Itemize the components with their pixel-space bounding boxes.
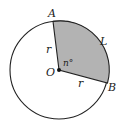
radius-label-ob: r bbox=[78, 77, 84, 90]
shaded-sector bbox=[53, 21, 109, 83]
point-a-label: A bbox=[47, 7, 56, 20]
angle-label: n° bbox=[63, 58, 73, 68]
circle-sector-diagram: A L r n° O r B bbox=[0, 0, 123, 124]
point-b-label: B bbox=[107, 81, 116, 94]
center-label: O bbox=[46, 66, 55, 79]
radius-label-oa: r bbox=[46, 43, 52, 56]
center-point bbox=[57, 68, 61, 72]
arc-label: L bbox=[99, 35, 107, 48]
